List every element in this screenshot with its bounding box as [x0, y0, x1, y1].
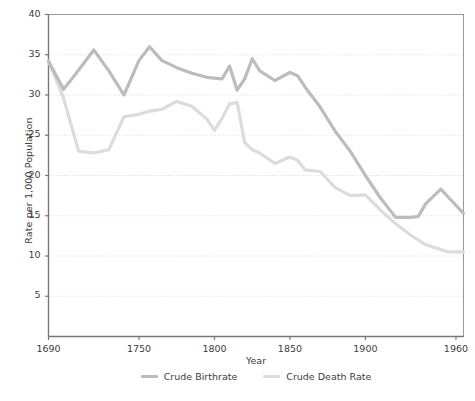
- x-tick-label: 1850: [260, 343, 320, 354]
- x-tick-label: 1800: [185, 343, 245, 354]
- y-tick-label: 5: [11, 289, 41, 300]
- x-axis-title: Year: [48, 355, 464, 366]
- y-tick-label: 30: [11, 88, 41, 99]
- y-tick-label: 25: [11, 128, 41, 139]
- y-tick-label: 10: [11, 249, 41, 260]
- y-tick-label: 20: [11, 169, 41, 180]
- x-tick-label: 1960: [426, 343, 475, 354]
- legend-label-crude-death-rate: Crude Death Rate: [286, 371, 371, 382]
- chart-plot-area: [0, 0, 475, 401]
- legend-item-crude-death-rate: Crude Death Rate: [263, 371, 371, 382]
- chart-legend: Crude Birthrate Crude Death Rate: [48, 371, 464, 382]
- legend-swatch-crude-birthrate: [141, 375, 158, 378]
- x-tick-label: 1690: [19, 343, 79, 354]
- x-tick-label: 1750: [109, 343, 169, 354]
- y-axis-title: Rate per 1,000 Population: [23, 91, 34, 271]
- y-tick-label: 15: [11, 209, 41, 220]
- line-chart-figure: Rate per 1,000 Population Year 403530252…: [0, 0, 475, 401]
- series-line-crude-death-rate: [49, 61, 464, 252]
- legend-item-crude-birthrate: Crude Birthrate: [141, 371, 238, 382]
- legend-swatch-crude-death-rate: [263, 375, 280, 378]
- legend-label-crude-birthrate: Crude Birthrate: [164, 371, 238, 382]
- y-tick-label: 40: [11, 8, 41, 19]
- series-line-crude-birthrate: [49, 47, 464, 218]
- x-tick-label: 1900: [335, 343, 395, 354]
- y-tick-label: 35: [11, 48, 41, 59]
